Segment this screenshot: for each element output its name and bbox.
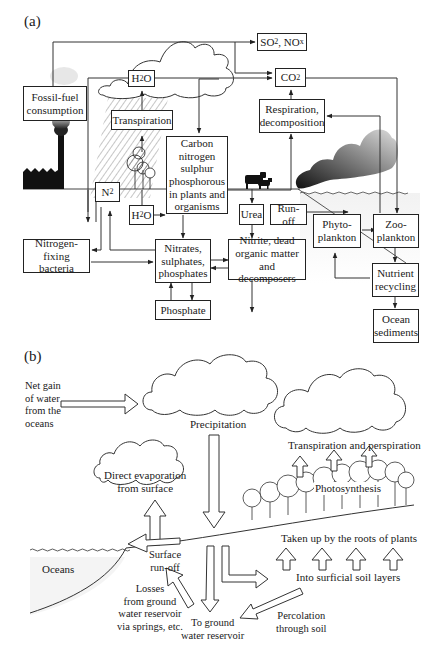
roots-up-arrow-icon xyxy=(346,548,366,570)
ocean-sediments-box: Ocean sediments xyxy=(373,309,419,343)
losses-label: Losses from ground water reservoir via s… xyxy=(117,583,183,633)
urea-box: Urea xyxy=(239,204,264,225)
losses-line: from ground xyxy=(117,596,183,609)
fossil-fuel-box: Fossil-fuel consumption xyxy=(23,86,87,121)
roots-up-arrow-icon xyxy=(276,548,296,570)
to-ground-arrow-icon xyxy=(201,546,219,612)
taken-up-label: Taken up by the roots of plants xyxy=(281,532,417,545)
cloud-icon xyxy=(99,42,234,99)
net-gain-line: oceans xyxy=(25,418,61,431)
percolation-line: through soil xyxy=(276,623,326,636)
cows-icon xyxy=(245,172,272,189)
co2-box: CO2 xyxy=(275,68,306,87)
phosphate-box: Phosphate xyxy=(155,300,211,320)
n2-box: N2 xyxy=(95,182,120,202)
net-gain-line: from the xyxy=(25,405,61,418)
surficial-arrow-icon xyxy=(222,546,268,588)
net-gain-label: Net gain of water from the oceans xyxy=(25,380,61,430)
surface-runoff-line: run-off xyxy=(149,562,181,575)
transpiration-box: Transpiration xyxy=(111,110,173,130)
respiration-box: Respiration, decomposition xyxy=(259,99,325,133)
evaporation-arrow-icon xyxy=(144,500,166,545)
smoke-icon xyxy=(296,130,398,189)
net-gain-line: of water xyxy=(25,393,61,406)
panel-a-label: (a) xyxy=(24,13,41,30)
direct-evaporation-line: from surface xyxy=(104,482,186,495)
losses-line: water reservoir xyxy=(117,608,183,621)
percolation-line: Percolation xyxy=(276,610,326,623)
panel-b-label: (b) xyxy=(24,348,42,365)
h2o-low-box: H2O xyxy=(129,205,154,225)
direct-evaporation-label: Direct evaporation from surface xyxy=(104,469,186,495)
nitrite-box: Nitrite, dead organic matter and decompo… xyxy=(228,239,306,280)
to-ground-line: To ground xyxy=(181,617,244,630)
transpiration-cloud-icon xyxy=(274,369,405,434)
runoff-box: Run-off xyxy=(270,204,307,225)
so2-nox-box: SO2, NOx xyxy=(257,33,307,51)
direct-evaporation-line: Direct evaporation xyxy=(104,469,186,482)
percolation-label: Percolation through soil xyxy=(276,610,326,635)
net-gain-line: Net gain xyxy=(25,380,61,393)
nutrient-recycling-box: Nutrient recycling xyxy=(372,263,419,297)
cnsp-box: Carbon nitrogen sulphur phosphorous in p… xyxy=(166,136,228,214)
losses-line: Losses xyxy=(117,583,183,596)
phytoplankton-box: Phyto-plankton xyxy=(313,214,361,248)
precipitation-arrow-icon xyxy=(203,435,225,528)
to-ground-label: To ground water reservoir xyxy=(181,617,244,642)
zooplankton-box: Zoo-plankton xyxy=(373,214,419,248)
net-gain-arrow-icon xyxy=(61,394,138,414)
oceans-label: Oceans xyxy=(42,563,74,576)
precipitation-cloud-icon xyxy=(143,355,278,416)
h2o-top-box: H2O xyxy=(128,70,155,87)
roots-up-arrow-icon xyxy=(312,548,332,570)
roots-up-arrow-icon xyxy=(383,548,403,570)
surface-runoff-label: Surface run-off xyxy=(149,549,181,574)
nitrogen-fixing-box: Nitrogen-fixing bacteria xyxy=(23,239,90,273)
surficial-label: Into surficial soil layers xyxy=(296,571,400,584)
surface-runoff-line: Surface xyxy=(149,549,181,562)
losses-line: via springs, etc. xyxy=(117,621,183,634)
to-ground-line: water reservoir xyxy=(181,630,244,643)
transpiration-perspiration-label: Transpiration and perspiration xyxy=(288,439,421,452)
nitrates-box: Nitrates, sulphates, phosphates xyxy=(155,239,211,283)
precipitation-label: Precipitation xyxy=(190,418,246,431)
photosynthesis-label: Photosynthesis xyxy=(314,482,382,495)
